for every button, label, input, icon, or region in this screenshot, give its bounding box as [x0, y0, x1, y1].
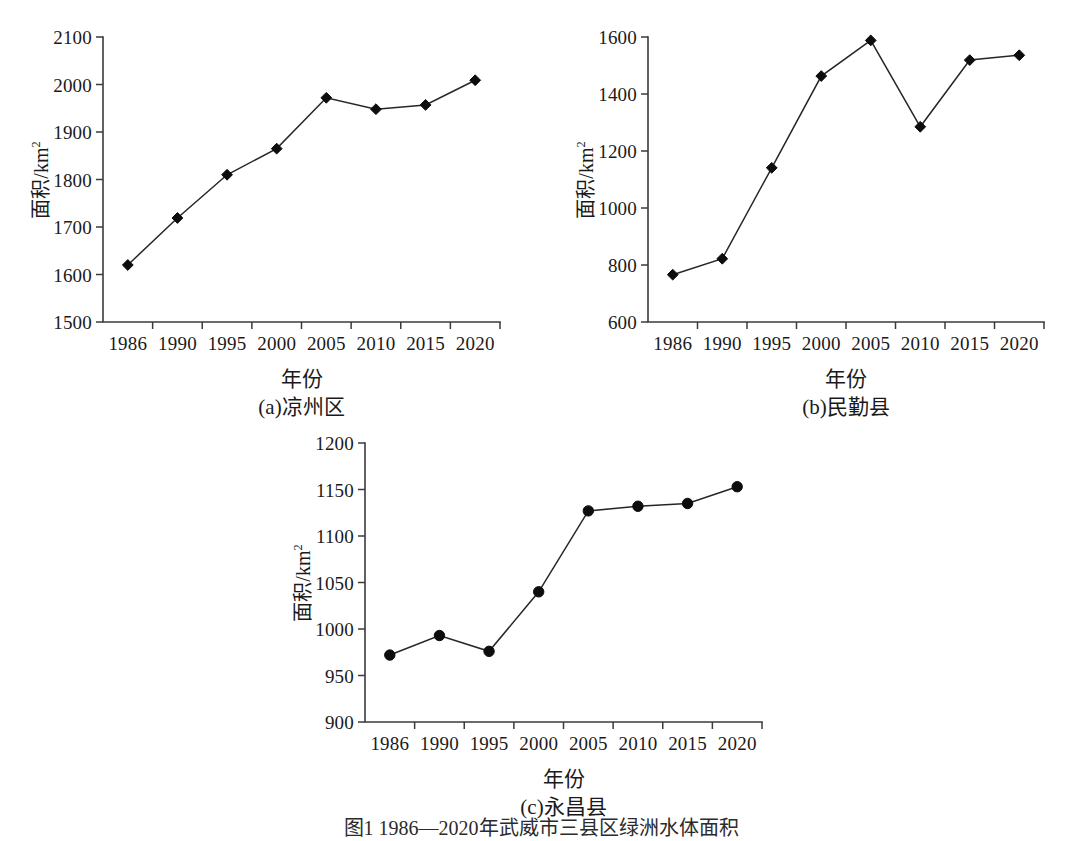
data-point-marker [385, 650, 395, 660]
data-point-marker [964, 55, 975, 66]
panel-minqin: 6008001000120014001600198619901995200020… [540, 0, 1082, 400]
data-point-marker [1014, 50, 1025, 61]
y-axis-title: 面积/km2 [28, 105, 54, 255]
series-line [390, 487, 737, 655]
y-tick-label: 900 [270, 713, 354, 732]
x-tick-label: 2010 [619, 734, 658, 753]
x-axis-title: 年份 [543, 762, 585, 792]
x-tick-label: 2005 [569, 734, 608, 753]
x-tick-label: 1986 [653, 334, 692, 353]
data-point-marker [371, 104, 382, 115]
x-tick-label: 2000 [519, 734, 558, 753]
panel-yongchang: 9009501000105011001150120019861990199520… [270, 410, 812, 800]
y-tick-label: 1200 [270, 434, 354, 453]
y-tick-label: 600 [540, 313, 637, 332]
data-point-marker [915, 121, 926, 132]
y-tick-label: 2000 [0, 75, 92, 94]
data-point-marker [633, 501, 643, 511]
x-tick-label: 2005 [851, 334, 890, 353]
x-axis-title: 年份 [281, 362, 323, 392]
x-tick-label: 1990 [420, 734, 459, 753]
figure-caption: 图1 1986—2020年武威市三县区绿洲水体面积 [344, 812, 739, 841]
y-tick-label: 950 [270, 666, 354, 685]
data-point-marker [816, 71, 827, 82]
data-point-marker [484, 646, 494, 656]
y-axis-title-superscript: 2 [291, 544, 305, 550]
x-tick-label: 1990 [158, 334, 197, 353]
y-axis-title-superscript: 2 [574, 141, 588, 147]
y-axis-title-text: 面积/km [30, 147, 52, 218]
panel-liangzhou: 1500160017001800190020002100198619901995… [0, 0, 540, 400]
data-point-marker [682, 498, 692, 508]
data-point-marker [667, 269, 678, 280]
x-tick-label: 2015 [406, 334, 445, 353]
y-axis-title: 面积/km2 [290, 508, 316, 658]
x-tick-label: 2000 [257, 334, 296, 353]
x-tick-label: 2020 [718, 734, 757, 753]
y-axis-title-superscript: 2 [29, 141, 43, 147]
y-tick-label: 800 [540, 256, 637, 275]
x-tick-label: 2010 [901, 334, 940, 353]
data-point-marker [434, 630, 444, 640]
x-tick-label: 1995 [752, 334, 791, 353]
y-axis-title-text: 面积/km [292, 550, 314, 621]
x-tick-label: 2000 [802, 334, 841, 353]
data-point-marker [533, 587, 543, 597]
y-axis-title-text: 面积/km [575, 147, 597, 218]
y-tick-label: 1600 [0, 265, 92, 284]
x-tick-label: 1986 [108, 334, 147, 353]
y-tick-label: 1400 [540, 85, 637, 104]
x-tick-label: 1986 [370, 734, 409, 753]
y-tick-label: 2100 [0, 28, 92, 47]
x-tick-label: 1995 [208, 334, 247, 353]
data-point-marker [865, 35, 876, 46]
y-tick-label: 1500 [0, 313, 92, 332]
axis-spine [648, 37, 1044, 322]
panel-caption-b: (b)民勤县 [802, 390, 890, 420]
x-tick-label: 2015 [950, 334, 989, 353]
y-tick-label: 1150 [270, 480, 354, 499]
data-point-marker [470, 75, 481, 86]
series-line [673, 40, 1020, 274]
y-axis-title: 面积/km2 [573, 105, 599, 255]
x-tick-label: 2010 [357, 334, 396, 353]
data-point-marker [732, 482, 742, 492]
data-point-marker [717, 253, 728, 264]
x-tick-label: 1995 [470, 734, 509, 753]
x-axis-title: 年份 [825, 362, 867, 392]
x-tick-label: 2020 [1000, 334, 1039, 353]
axis-spine [365, 443, 762, 722]
axis-spine [103, 37, 500, 322]
x-tick-label: 2020 [456, 334, 495, 353]
x-tick-label: 1990 [703, 334, 742, 353]
data-point-marker [583, 506, 593, 516]
y-tick-label: 1600 [540, 28, 637, 47]
data-point-marker [420, 100, 431, 111]
x-tick-label: 2005 [307, 334, 346, 353]
data-point-marker [766, 162, 777, 173]
x-tick-label: 2015 [668, 734, 707, 753]
